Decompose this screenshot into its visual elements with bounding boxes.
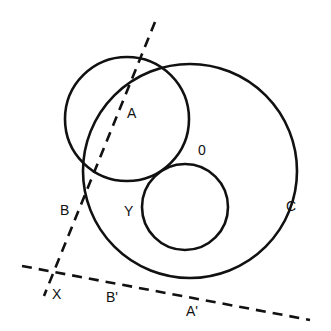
label-b: B <box>60 202 69 218</box>
circle-c <box>83 64 297 278</box>
label-o: 0 <box>198 142 206 158</box>
label-c: C <box>286 198 296 214</box>
small-circle-through-o-y <box>142 164 228 250</box>
geometry-diagram: A B 0 Y C X B' A' <box>0 0 331 331</box>
label-a: A <box>127 105 137 121</box>
label-y: Y <box>124 203 134 219</box>
label-a-prime: A' <box>186 303 198 319</box>
label-b-prime: B' <box>106 289 118 305</box>
label-x: X <box>52 286 62 302</box>
